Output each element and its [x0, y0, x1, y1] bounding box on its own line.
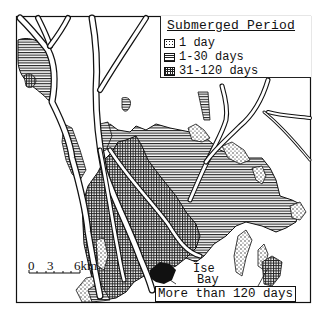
- dotted-swatch-icon: [164, 39, 175, 48]
- legend-label: 31-120 days: [179, 64, 258, 78]
- bay-label: Ise Bay: [193, 264, 219, 286]
- legend-label: 1-30 days: [179, 50, 244, 64]
- legend-item-1-30-days: 1-30 days: [164, 50, 244, 64]
- legend-item-1-day: 1 day: [164, 36, 215, 50]
- legend: Submerged Period 1 day 1-30 days 31-120 …: [160, 16, 311, 78]
- scale-tick-3: 3: [47, 258, 54, 274]
- legend-item-31-120-days: 31-120 days: [164, 64, 258, 78]
- scale-tick-6km: 6km: [74, 258, 97, 274]
- bay-label-line-2: Bay: [193, 275, 219, 286]
- grid-swatch-icon: [164, 67, 175, 76]
- legend-title: Submerged Period: [167, 18, 295, 33]
- scale-tick-0: 0: [28, 258, 35, 274]
- horizontal-lines-swatch-icon: [164, 53, 175, 62]
- legend-label: 1 day: [179, 36, 215, 50]
- over-120-days-callout: More than 120 days: [155, 286, 296, 302]
